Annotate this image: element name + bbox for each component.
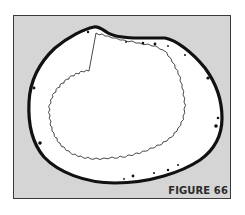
outer-outline [29,27,222,183]
figure-caption: FIGURE 66 [168,185,228,196]
cross-section-diagram [0,0,245,215]
